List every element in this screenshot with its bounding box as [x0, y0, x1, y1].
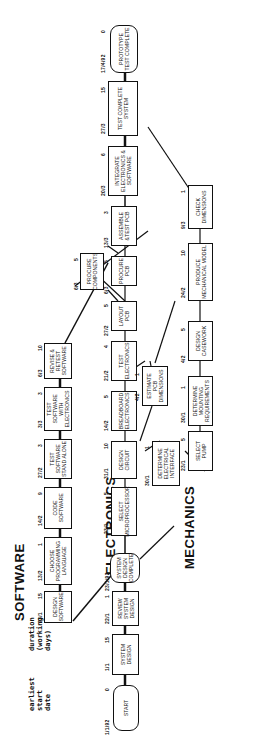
node-estimate-pcb: ESTIMATE PCB DIMENSIONS [142, 366, 168, 406]
node-design-circuit: DESIGN CIRCUIT [111, 441, 137, 479]
dcw-date: 4/2 [180, 355, 186, 363]
start-dur: 0 [104, 688, 110, 691]
code-software-dur: 9 [37, 492, 43, 495]
node-code-software: CODE SOFTWARE [44, 487, 72, 529]
pp-dur: 5 [103, 260, 109, 263]
tcs-dur: 15 [100, 87, 106, 93]
pmm-date: 24/2 [180, 287, 186, 298]
dcw-dur: 5 [180, 328, 186, 331]
node-review-system-design: REVIEW SYSTEM DESIGN [112, 591, 139, 626]
sdc-date: 23/1/92 [104, 572, 110, 591]
review-dur: 1 [104, 595, 110, 598]
choose-language-date: 13/2 [37, 570, 43, 581]
pmm-dur: 10 [180, 250, 186, 256]
node-produce-model: PRODUCE MECHANICAL MODEL [188, 243, 213, 301]
bb-dur: 5 [103, 395, 109, 398]
node-start: START [113, 685, 139, 731]
dei-dur: 1 [144, 446, 150, 449]
tse-dur: 3 [37, 392, 43, 395]
node-assemble-pcb: ASSEMBLE &TEST PCB [111, 206, 137, 246]
code-software-date: 14/2 [37, 515, 43, 526]
node-procure-pcb: PROCURE PCB [111, 256, 137, 286]
te-date: 21/2 [103, 370, 109, 381]
sp-date: 23/1 [180, 460, 186, 471]
node-test-software-standalone: TEST SOFTWARE STAND ALONE [44, 439, 72, 479]
sp-dur: 5 [180, 438, 186, 441]
smp-date: 23/1 [103, 523, 109, 534]
node-prototype-complete: PROTOTYPE TEST COMPLETE [110, 25, 138, 73]
node-test-complete-system: TEST COMPLETE SYSTEM [108, 81, 138, 136]
node-test-software-electronics: TEST SOFTWARE WITH ELECTRONICS [44, 387, 72, 431]
dmr-date: 30/1 [180, 412, 186, 423]
ptc-dur: 0 [100, 30, 106, 33]
pc-dur: 5 [73, 258, 79, 261]
dc-dur: 10 [103, 443, 109, 449]
choose-language-dur: 1 [37, 543, 43, 546]
ap-dur: 3 [103, 211, 109, 214]
node-determine-mounting: DETERMINE MOUNTING REQUIREMENTS [188, 376, 213, 426]
smp-dur: 5 [103, 492, 109, 495]
node-check-dimensions: CHECK DIMENSIONS [188, 185, 213, 229]
tse-date: 3/3 [37, 420, 43, 428]
ep-dur: 1 [134, 373, 140, 376]
node-design-casework: DESIGN CASEWORK [188, 321, 213, 361]
node-system-design-complete: SYSTEM DESIGN COMPLETE [110, 553, 140, 583]
dc-date: 31/1 [103, 468, 109, 479]
design-software-date: 23/1 [37, 612, 43, 623]
review-date: 22/1 [104, 613, 110, 624]
system-design-date: 1/1 [104, 663, 110, 671]
ap-date: 13/3 [103, 237, 109, 248]
pp-date: 6/3 [103, 286, 109, 294]
dmr-dur: 1 [180, 386, 186, 389]
tcs-date: 27/3 [100, 123, 106, 134]
pert-network-diagram: SOFTWARE ELECTRONICS MECHANICS earliests… [0, 0, 253, 741]
software-header: SOFTWARE [12, 543, 27, 621]
node-design-software: DESIGN SOFTWARE [44, 591, 72, 623]
tss-dur: 3 [37, 444, 43, 447]
cd-dur: 1 [180, 190, 186, 193]
bb-date: 14/2 [103, 420, 109, 431]
node-determine-interface: DETERMINE ELECTRICAL INTERFACE [152, 441, 180, 486]
legend-start-date: earlieststartdate [28, 681, 52, 711]
revise-dur: 10 [37, 345, 43, 351]
node-integrate: INTEGRATE ELECTRONICS & SOFTWARE [108, 146, 138, 196]
pc-date: 6/3 [73, 282, 79, 290]
node-system-design: SYSTEM DESIGN [112, 634, 139, 675]
dei-date: 30/1 [144, 475, 150, 486]
node-revise-retest: REVISE & RETEST SOFTWARE [44, 343, 72, 379]
node-select-pump: SELECT PUMP [188, 431, 213, 471]
system-design-dur: 15 [104, 637, 110, 643]
lp-date: 27/2 [103, 325, 109, 336]
node-procure-components: PROCURE COMPONENTS [80, 253, 104, 290]
node-select-microprocessor: SELECT MICROPROCESSOR [111, 487, 137, 536]
mechanics-header: MECHANICS [182, 486, 197, 569]
ptc-date: 17/4/92 [100, 54, 106, 73]
cd-date: 9/3 [180, 221, 186, 229]
lp-dur: 5 [103, 304, 109, 307]
int-dur: 6 [100, 153, 106, 156]
start-date: 1/1/92 [104, 719, 110, 735]
revise-date: 6/3 [37, 369, 43, 377]
tss-date: 27/2 [37, 467, 43, 478]
te-dur: 4 [103, 345, 109, 348]
int-date: 20/3 [100, 185, 106, 196]
node-layout-pcb: LAYOUT PCB [111, 301, 137, 331]
ep-date: 4/2 [134, 393, 140, 401]
design-software-dur: 15 [37, 593, 43, 599]
node-choose-language: CHOOSE PROGRAMMING LANGUAGE [44, 537, 72, 585]
